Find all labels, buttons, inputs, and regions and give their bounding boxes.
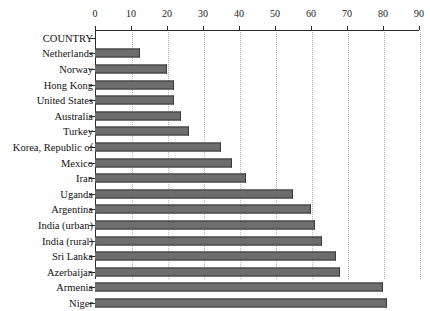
bar bbox=[95, 142, 221, 151]
bar bbox=[95, 267, 340, 276]
y-tick-mark bbox=[89, 38, 95, 39]
x-tick-label: 60 bbox=[306, 9, 316, 19]
x-tick-label: 80 bbox=[378, 9, 388, 19]
category-label: India (urban) bbox=[38, 219, 93, 230]
bar-row: India (urban) bbox=[0, 217, 430, 233]
category-label: Australia bbox=[55, 110, 94, 121]
bar-row: Korea, Republic of bbox=[0, 139, 430, 155]
bar-row: Iran bbox=[0, 170, 430, 186]
bar bbox=[95, 80, 174, 89]
category-label: Armenia bbox=[56, 282, 93, 293]
bar-row: COUNTRY bbox=[0, 30, 430, 46]
x-tick-label: 50 bbox=[270, 9, 280, 19]
category-label: Korea, Republic of bbox=[13, 141, 93, 152]
x-tick-label: 10 bbox=[126, 9, 136, 19]
bar bbox=[95, 298, 387, 307]
x-tick-label: 40 bbox=[234, 9, 244, 19]
bar-row: Australia bbox=[0, 108, 430, 124]
x-tick-label: 30 bbox=[198, 9, 208, 19]
bar-row: Niger bbox=[0, 295, 430, 311]
bar bbox=[95, 252, 336, 261]
category-label: India (rural) bbox=[42, 235, 93, 246]
bar bbox=[95, 127, 189, 136]
bar-row: United States bbox=[0, 92, 430, 108]
bar-row: Argentina bbox=[0, 202, 430, 218]
bar-row: Armenia bbox=[0, 280, 430, 296]
category-label: Argentina bbox=[51, 204, 93, 215]
category-label: Sri Lanka bbox=[52, 251, 93, 262]
bar-row: Hong Kong bbox=[0, 77, 430, 93]
bar bbox=[95, 49, 140, 58]
bar bbox=[95, 189, 293, 198]
bar-row: Azerbaijan bbox=[0, 264, 430, 280]
x-tick-label: 70 bbox=[342, 9, 352, 19]
bar-row: India (rural) bbox=[0, 233, 430, 249]
bar-row: Sri Lanka bbox=[0, 248, 430, 264]
category-label: Azerbaijan bbox=[47, 266, 93, 277]
bar bbox=[95, 283, 383, 292]
bar bbox=[95, 174, 246, 183]
bar-row: Mexico bbox=[0, 155, 430, 171]
x-tick-label: 0 bbox=[93, 9, 98, 19]
category-label: Netherlands bbox=[42, 48, 93, 59]
x-tick-label: 90 bbox=[414, 9, 424, 19]
bar bbox=[95, 158, 232, 167]
bar bbox=[95, 64, 167, 73]
bar bbox=[95, 96, 174, 105]
x-tick-label: 20 bbox=[162, 9, 172, 19]
bar bbox=[95, 236, 322, 245]
bar-row: Uganda bbox=[0, 186, 430, 202]
bar bbox=[95, 111, 181, 120]
category-label: United States bbox=[37, 95, 93, 106]
category-label: Norway bbox=[59, 63, 93, 74]
bar-rows: COUNTRYNetherlandsNorwayHong KongUnited … bbox=[0, 30, 430, 279]
bar bbox=[95, 205, 311, 214]
bar bbox=[95, 220, 315, 229]
category-label: COUNTRY bbox=[43, 32, 93, 43]
bar-row: Norway bbox=[0, 61, 430, 77]
category-label: Hong Kong bbox=[44, 79, 93, 90]
bar-row: Netherlands bbox=[0, 46, 430, 62]
bar-row: Turkey bbox=[0, 124, 430, 140]
